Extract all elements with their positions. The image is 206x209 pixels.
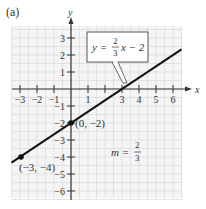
svg-text:−6: −6 (54, 186, 65, 197)
svg-text:1: 1 (86, 94, 91, 105)
equation-num: 2 (113, 36, 118, 46)
svg-text:3: 3 (120, 94, 125, 105)
point-neg3-neg4 (18, 154, 24, 160)
equation-lhs: y = (91, 41, 107, 53)
x-axis-arrow-icon (185, 87, 192, 92)
svg-text:−5: −5 (54, 169, 65, 180)
svg-text:−3: −3 (15, 94, 26, 105)
slope-lhs: m = (111, 146, 129, 158)
point-label-0-neg2: (0, −2) (75, 117, 105, 130)
svg-text:−3: −3 (54, 135, 65, 146)
svg-text:2: 2 (60, 50, 65, 61)
graph: −3−2−113456321−1−2−3−4−5−6 x y (a) (0, −… (0, 0, 206, 209)
x-axis-label: x (194, 84, 200, 95)
slope-num: 2 (135, 140, 140, 150)
svg-text:4: 4 (137, 94, 142, 105)
svg-text:5: 5 (154, 94, 159, 105)
svg-text:−1: −1 (54, 101, 65, 112)
equation-den: 3 (113, 48, 118, 58)
svg-text:−4: −4 (54, 152, 65, 163)
svg-text:−2: −2 (32, 94, 43, 105)
y-axis-arrow-icon (69, 17, 74, 24)
svg-text:3: 3 (60, 33, 65, 44)
slope-den: 3 (135, 153, 140, 163)
svg-text:6: 6 (171, 94, 176, 105)
point-0-neg2 (68, 120, 74, 126)
y-axis-label: y (67, 7, 73, 18)
panel-label: (a) (6, 5, 19, 19)
equation-rhs: x − 2 (120, 41, 145, 53)
svg-text:1: 1 (60, 67, 65, 78)
svg-text:−2: −2 (54, 118, 65, 129)
point-label-neg3-neg4: (−3, −4) (19, 161, 56, 174)
